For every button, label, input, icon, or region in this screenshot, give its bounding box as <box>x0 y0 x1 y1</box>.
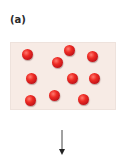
particle <box>64 45 75 56</box>
particle <box>52 57 63 68</box>
particle <box>22 49 33 60</box>
particle <box>67 73 78 84</box>
particle <box>25 95 36 106</box>
particle <box>89 73 100 84</box>
particle <box>87 51 98 62</box>
panel-label: (a) <box>10 14 26 25</box>
particle <box>26 73 37 84</box>
particle <box>49 90 60 101</box>
down-arrow-icon <box>61 130 63 154</box>
particle <box>78 94 89 105</box>
